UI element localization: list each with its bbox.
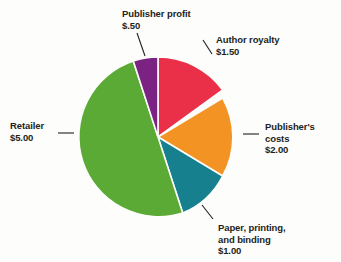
leader-line-paper-printing-binding [202,205,213,219]
label-publisher-profit-value: $.50 [122,20,191,32]
label-publishers-costs-value: $2.00 [265,144,315,156]
label-retailer-value: $5.00 [10,132,44,144]
leader-line-author-royalty [203,40,212,54]
label-publishers-costs-name-line1: Publisher's [265,121,315,132]
leader-line-publisher-profit [137,33,145,56]
pie-chart: Publisher profit $.50 Author royalty $1.… [0,0,341,262]
label-retailer-name: Retailer [10,120,44,131]
label-publisher-profit-name: Publisher profit [122,8,191,19]
label-publishers-costs-name-line2: costs [265,133,315,145]
label-paper-printing-binding-name-line1: Paper, printing, [218,222,286,233]
label-author-royalty-value: $1.50 [216,46,280,58]
label-author-royalty-name: Author royalty [216,34,280,45]
pie-slices [79,57,233,217]
label-paper-printing-binding: Paper, printing, and binding $1.00 [218,222,286,257]
label-author-royalty: Author royalty $1.50 [216,34,280,57]
label-publishers-costs: Publisher's costs $2.00 [265,121,315,156]
label-retailer: Retailer $5.00 [10,120,44,143]
label-publisher-profit: Publisher profit $.50 [122,8,191,31]
label-paper-printing-binding-name-line2: and binding [218,234,286,246]
label-paper-printing-binding-value: $1.00 [218,245,286,257]
